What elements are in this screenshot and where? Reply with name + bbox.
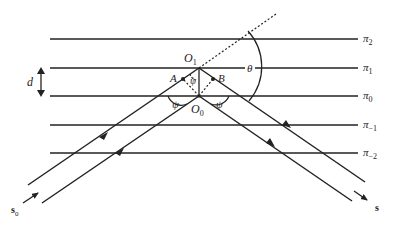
plane-label-pi-minus2: π−2 xyxy=(363,146,377,161)
bragg-diagram: π2 π1 π0 π−1 π−2 d O1 O0 A B xyxy=(0,0,393,226)
label-psi-right: ψ xyxy=(216,98,223,110)
plane-label-pi0: π0 xyxy=(363,89,373,104)
label-theta: θ xyxy=(247,62,253,74)
label-O1: O1 xyxy=(184,51,197,67)
label-s0: s0 xyxy=(11,204,19,218)
incident-extension xyxy=(199,14,276,68)
point-O0 xyxy=(197,94,200,97)
diffracted-ray-lower xyxy=(199,96,352,201)
incident-vector-s0 xyxy=(23,193,38,203)
spacing-arrow xyxy=(37,67,45,97)
label-A: A xyxy=(169,72,177,84)
label-O0: O0 xyxy=(191,102,204,118)
label-psi-inner: ψ xyxy=(190,75,197,86)
plane-labels: π2 π1 π0 π−1 π−2 xyxy=(363,32,377,161)
point-A xyxy=(181,77,185,81)
spacing-label-d: d xyxy=(27,75,34,89)
incident-rays xyxy=(28,68,199,203)
crystal-planes xyxy=(50,39,358,153)
label-B: B xyxy=(218,72,225,84)
incident-ray-upper xyxy=(28,68,199,185)
perpendicular-O0-B xyxy=(199,79,213,96)
dotted-lines xyxy=(183,14,276,96)
incident-ray-lower xyxy=(42,96,199,203)
plane-label-pi-minus1: π−1 xyxy=(363,118,377,133)
point-B xyxy=(211,77,215,81)
label-s: s xyxy=(375,202,379,213)
plane-label-pi1: π1 xyxy=(363,61,373,76)
diffracted-rays xyxy=(199,68,365,201)
diffracted-vector-s xyxy=(354,191,367,200)
plane-label-pi2: π2 xyxy=(363,32,373,47)
label-psi-left: ψ xyxy=(172,98,179,110)
